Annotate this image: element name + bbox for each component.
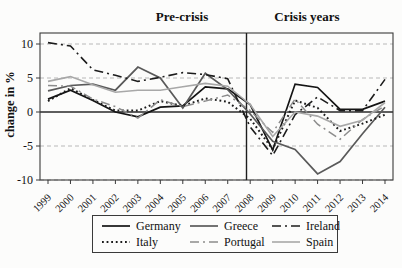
x-tick-label-2011: 2011 [301,192,323,214]
x-tick-label-2014: 2014 [368,191,391,214]
series-line-germany [48,84,385,150]
x-tick-label-2007: 2007 [211,192,234,215]
y-tick-label--10: -10 [17,173,33,187]
x-tick-label-2010: 2010 [278,192,301,215]
x-tick-label-1999: 1999 [31,192,54,215]
legend-line-sample-spain [271,237,301,247]
x-tick-label-2001: 2001 [76,192,99,215]
legend-label-spain: Spain [306,235,333,249]
legend: GermanyGreeceIrelandItalyPortugalSpain [92,215,338,253]
y-tick-label--5: -5 [23,139,33,153]
y-tick-label-5: 5 [27,71,33,85]
x-tick-label-2008: 2008 [233,192,256,215]
legend-line-sample-ireland [271,221,301,231]
legend-item-greece: Greece [189,219,271,233]
legend-line-sample-germany [101,221,131,231]
x-tick-label-2003: 2003 [121,192,144,215]
x-tick-label-2002: 2002 [98,192,121,215]
x-tick-label-2004: 2004 [143,191,166,214]
legend-label-germany: Germany [136,219,181,233]
legend-label-portugal: Portugal [224,235,265,249]
legend-label-italy: Italy [136,235,158,249]
legend-item-portugal: Portugal [189,235,271,249]
legend-item-italy: Italy [101,235,189,249]
legend-line-sample-portugal [189,237,219,247]
y-tick-label-0: 0 [27,105,33,119]
legend-item-ireland: Ireland [271,219,340,233]
plot-border [40,33,393,180]
x-tick-label-2005: 2005 [166,192,189,215]
x-tick-label-2012: 2012 [323,192,346,215]
legend-line-sample-italy [101,237,131,247]
x-tick-label-2006: 2006 [188,192,211,215]
x-tick-label-2013: 2013 [345,192,368,215]
x-tick-label-2009: 2009 [255,192,278,215]
legend-item-germany: Germany [101,219,189,233]
legend-label-greece: Greece [224,219,258,233]
series-line-ireland [48,43,385,156]
legend-line-sample-greece [189,221,219,231]
legend-label-ireland: Ireland [306,219,340,233]
x-tick-label-2000: 2000 [53,192,76,215]
y-tick-label-10: 10 [21,37,33,51]
series-line-greece [48,67,385,174]
legend-item-spain: Spain [271,235,340,249]
gdp-growth-figure: Pre-crisis Crisis years change in % 1050… [0,0,402,268]
